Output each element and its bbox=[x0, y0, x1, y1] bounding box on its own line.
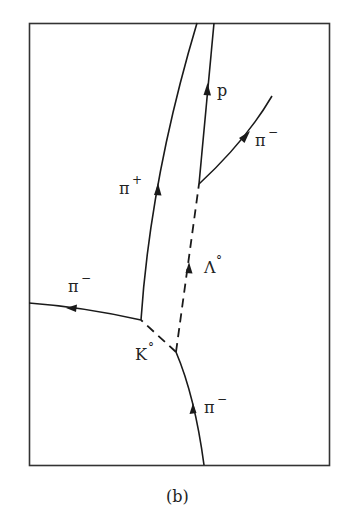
arrow-pi-minus-left-icon bbox=[66, 305, 77, 313]
label-pi-minus-bottom: π bbox=[204, 398, 215, 417]
label-pi-plus: π bbox=[119, 179, 130, 198]
arrow-proton-icon bbox=[204, 83, 212, 96]
figure-frame bbox=[30, 24, 330, 466]
label-kaon: K bbox=[135, 345, 148, 364]
label-lambda: Λ bbox=[203, 258, 216, 277]
label-pi-minus-right-sup: − bbox=[268, 125, 278, 139]
label-pi-minus-left-sup: − bbox=[81, 271, 91, 285]
track-pi-minus-incoming bbox=[176, 352, 204, 465]
label-pi-minus-right: π bbox=[255, 131, 266, 150]
label-lambda-sup: ° bbox=[216, 254, 222, 268]
label-pi-plus-sup: + bbox=[132, 173, 142, 187]
track-pi-minus-left bbox=[29, 303, 141, 320]
label-pi-minus-left: π bbox=[68, 277, 79, 296]
label-proton: p bbox=[217, 81, 227, 100]
track-pi-plus bbox=[141, 23, 197, 320]
track-proton bbox=[199, 23, 214, 184]
bubble-chamber-diagram: p π − π + Λ ° π − K ° π − (b) bbox=[0, 0, 345, 519]
label-pi-minus-bottom-sup: − bbox=[217, 392, 227, 406]
arrow-lambda-icon bbox=[186, 262, 193, 274]
figure-caption: (b) bbox=[166, 487, 189, 506]
label-kaon-sup: ° bbox=[148, 341, 154, 355]
arrow-pi-minus-incoming-icon bbox=[190, 403, 197, 414]
arrow-pi-plus-icon bbox=[154, 183, 162, 196]
